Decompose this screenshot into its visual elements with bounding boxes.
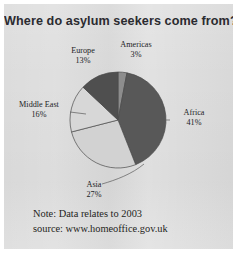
pie-label-americas-value: 3% (111, 50, 161, 60)
figure-note: Note: Data relates to 2003 source: www.h… (33, 207, 168, 237)
panel-content: Where do asylum seekers come from? Europ… (4, 4, 233, 249)
pie-label-europe: Europe 13% (60, 46, 106, 65)
pie-label-americas: Americas 3% (111, 40, 161, 59)
pie-label-africa: Africa 41% (172, 108, 216, 127)
scanned-page-surface: Where do asylum seekers come from? Europ… (4, 4, 233, 249)
pie-label-middle-east-value: 16% (8, 110, 70, 120)
pie-label-middle-east: Middle East 16% (8, 100, 70, 119)
pie-label-asia-name: Asia (74, 180, 114, 190)
figure-note-line-1: Note: Data relates to 2003 (33, 207, 168, 222)
figure-note-line-2: source: www.homeoffice.gov.uk (33, 222, 168, 237)
figure-panel: Where do asylum seekers come from? Europ… (0, 0, 237, 253)
pie-label-middle-east-name: Middle East (8, 100, 70, 110)
pie-slice-group (70, 72, 166, 168)
pie-label-europe-value: 13% (60, 56, 106, 66)
pie-label-africa-name: Africa (172, 108, 216, 118)
pie-label-europe-name: Europe (60, 46, 106, 56)
pie-label-asia: Asia 27% (74, 180, 114, 199)
pie-label-asia-value: 27% (74, 190, 114, 200)
pie-label-americas-name: Americas (111, 40, 161, 50)
pie-label-africa-value: 41% (172, 118, 216, 128)
